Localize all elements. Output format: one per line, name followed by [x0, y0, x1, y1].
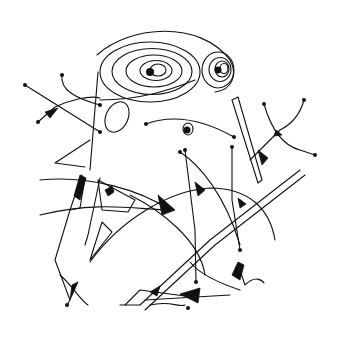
eye-pupil — [184, 127, 191, 134]
ink-line — [55, 140, 90, 167]
endpoint-dot — [183, 148, 187, 152]
ink-line — [55, 210, 70, 305]
large-spiral-ring — [126, 55, 182, 87]
black-wedge — [105, 186, 114, 196]
ink-line — [100, 80, 195, 100]
endpoint-dot — [23, 83, 27, 87]
ink-line — [38, 97, 100, 122]
endpoint-dot — [302, 98, 306, 102]
small-spiral-center-dot — [215, 67, 222, 74]
endpoint-dot — [194, 280, 198, 284]
ink-line — [145, 175, 305, 310]
small-spiral-ring — [220, 64, 228, 74]
ink-line — [232, 97, 262, 183]
black-wedge — [258, 150, 268, 165]
ink-line — [264, 104, 315, 155]
oval-shape — [100, 98, 133, 136]
ink-line — [62, 75, 100, 105]
black-wedge — [158, 195, 175, 215]
ink-line — [90, 222, 112, 260]
black-wedge — [74, 175, 86, 200]
endpoint-dot — [262, 102, 266, 106]
endpoint-dot — [238, 248, 242, 252]
endpoint-dot — [36, 120, 40, 124]
ink-line — [150, 303, 185, 305]
ink-line — [190, 262, 240, 290]
endpoint-dot — [98, 103, 102, 107]
endpoint-dot — [60, 73, 64, 77]
black-wedge — [195, 182, 205, 196]
ink-line — [90, 72, 98, 170]
artwork-svg — [0, 0, 344, 340]
ink-line — [90, 188, 275, 262]
black-wedge — [180, 288, 200, 303]
endpoint-dot — [144, 122, 148, 126]
endpoint-dot — [98, 130, 102, 134]
black-wedge — [238, 198, 246, 208]
large-spiral-ring — [140, 61, 172, 81]
endpoint-dot — [186, 306, 190, 310]
ink-line — [180, 152, 240, 245]
endpoint-dot — [313, 153, 317, 157]
ink-line — [240, 270, 264, 285]
endpoint-dot — [235, 266, 239, 270]
endpoint-dot — [230, 145, 234, 149]
endpoint-dot — [178, 150, 182, 154]
endpoint-dot — [65, 303, 69, 307]
large-spiral-center-dot — [146, 68, 154, 76]
black-wedge — [70, 282, 78, 300]
ink-line — [25, 85, 100, 132]
abstract-line-drawing — [0, 0, 344, 340]
endpoint-dot — [232, 135, 236, 139]
ink-line — [120, 170, 300, 305]
